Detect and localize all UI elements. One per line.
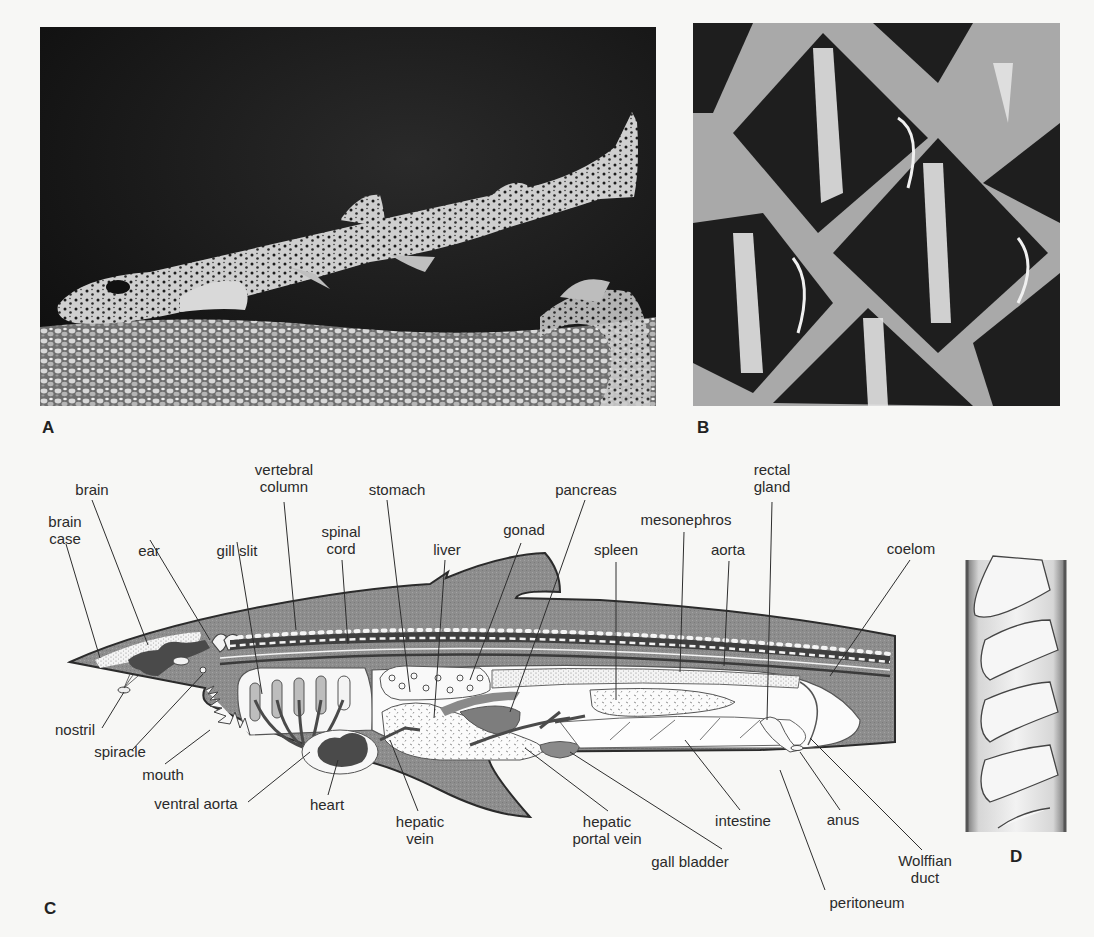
label-peritoneum: peritoneum [829, 894, 904, 911]
label-intestine: intestine [715, 812, 771, 829]
panel-label-d: D [1010, 847, 1022, 867]
label-pancreas: pancreas [555, 481, 617, 498]
spiral-valve [967, 556, 1065, 832]
label-mesonephros: mesonephros [641, 511, 732, 528]
label-hepatic-portal-vein: hepaticportal vein [572, 813, 641, 847]
label-wolffian-duct: Wolffianduct [898, 852, 952, 886]
label-mouth: mouth [142, 766, 184, 783]
label-spiracle: spiracle [94, 743, 146, 760]
label-rectal-gland: rectalgland [754, 461, 791, 495]
label-ventral-aorta: ventral aorta [154, 795, 237, 812]
label-vertebral-column: vertebralcolumn [255, 461, 313, 495]
label-hepatic-vein: hepaticvein [396, 813, 444, 847]
label-spleen: spleen [594, 541, 638, 558]
label-anus: anus [827, 811, 860, 828]
label-liver: liver [433, 541, 461, 558]
label-gonad: gonad [503, 521, 545, 538]
label-heart: heart [310, 796, 344, 813]
eye-socket [173, 657, 189, 665]
label-nostril: nostril [55, 721, 95, 738]
label-coelom: coelom [887, 540, 935, 557]
anus [791, 746, 803, 751]
label-brain: brain [75, 481, 108, 498]
label-aorta: aorta [711, 541, 745, 558]
spiracle [200, 667, 206, 673]
label-ear: ear [138, 542, 160, 559]
label-gill-slit: gill slit [217, 542, 258, 559]
label-spinal-cord: spinalcord [321, 523, 360, 557]
label-gall-bladder: gall bladder [651, 853, 729, 870]
panel-label-c: C [44, 899, 56, 919]
label-stomach: stomach [369, 481, 426, 498]
label-brain-case: braincase [48, 513, 81, 547]
gall-bladder [540, 742, 580, 759]
